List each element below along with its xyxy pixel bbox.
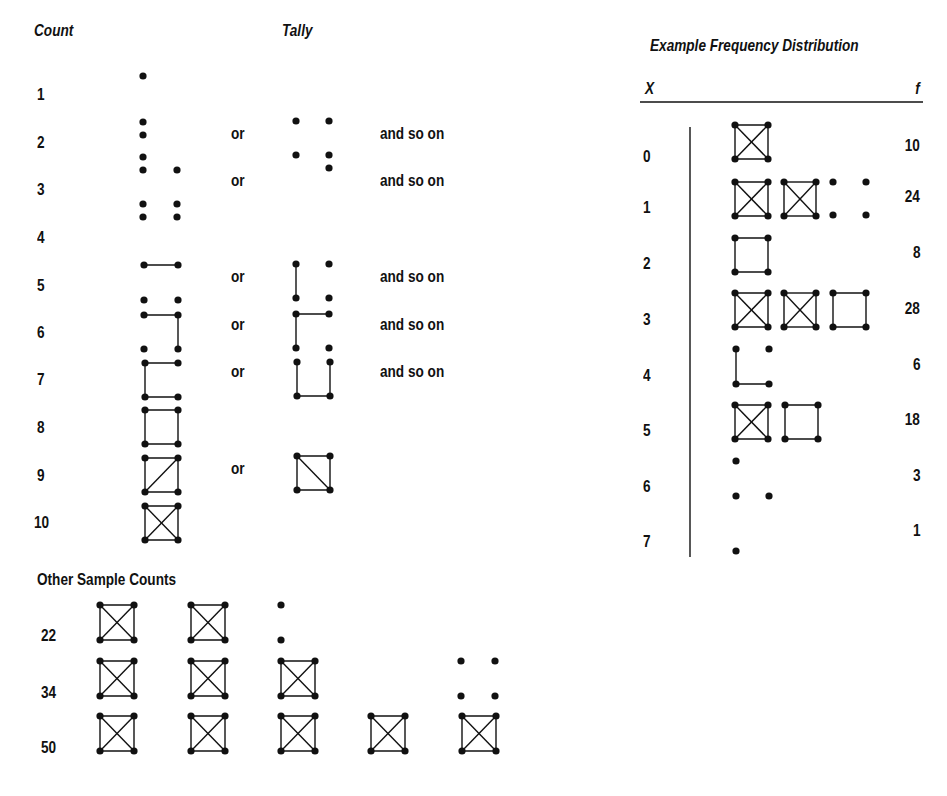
f-value-2: 8 [912, 244, 920, 261]
x-value-0: 0 [643, 148, 651, 165]
f-value-5: 18 [905, 411, 920, 428]
or-label: or [231, 268, 245, 285]
or-label: or [231, 125, 245, 142]
tally-header: Tally [282, 22, 312, 39]
count-label-6: 6 [37, 324, 45, 341]
and-so-on-label: and so on [380, 268, 444, 285]
count-label-9: 9 [37, 467, 45, 484]
x-value-4: 4 [643, 367, 651, 384]
count-label-8: 8 [37, 419, 45, 436]
count-label-3: 3 [37, 181, 45, 198]
count-label-5: 5 [37, 277, 45, 294]
or-label: or [231, 460, 245, 477]
f-value-3: 28 [905, 300, 920, 317]
count-label-2: 2 [37, 134, 45, 151]
f-column-header: f [915, 80, 920, 97]
frequency-title: Example Frequency Distribution [650, 37, 859, 54]
x-value-1: 1 [643, 199, 651, 216]
other-count-label-34: 34 [41, 684, 56, 701]
x-value-2: 2 [643, 255, 651, 272]
count-label-10: 10 [34, 514, 49, 531]
count-label-1: 1 [37, 86, 45, 103]
f-value-6: 3 [912, 467, 920, 484]
or-label: or [231, 172, 245, 189]
x-value-3: 3 [643, 311, 651, 328]
other-count-label-22: 22 [41, 627, 56, 644]
count-label-4: 4 [37, 229, 45, 246]
x-value-7: 7 [643, 533, 651, 550]
and-so-on-label: and so on [380, 125, 444, 142]
and-so-on-label: and so on [380, 172, 444, 189]
or-label: or [231, 316, 245, 333]
and-so-on-label: and so on [380, 316, 444, 333]
f-value-1: 24 [905, 188, 920, 205]
x-column-header: X [645, 80, 654, 97]
or-label: or [231, 363, 245, 380]
count-header: Count [34, 22, 73, 39]
other-samples-title: Other Sample Counts [37, 571, 176, 588]
x-value-5: 5 [643, 422, 651, 439]
and-so-on-label: and so on [380, 363, 444, 380]
f-value-0: 10 [905, 137, 920, 154]
tally-diagram [0, 0, 947, 796]
f-value-7: 1 [912, 522, 920, 539]
other-count-label-50: 50 [41, 739, 56, 756]
f-value-4: 6 [912, 356, 920, 373]
x-value-6: 6 [643, 478, 651, 495]
count-label-7: 7 [37, 371, 45, 388]
